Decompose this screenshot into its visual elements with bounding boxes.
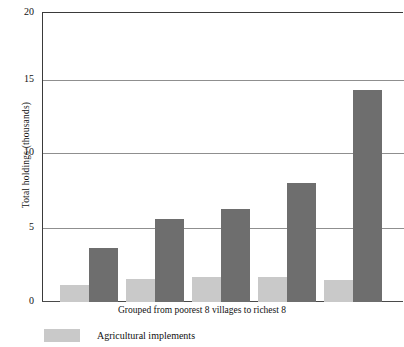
bar-dark-3: [221, 209, 250, 302]
bar-light-3: [192, 277, 221, 302]
bar-light-4: [258, 277, 287, 302]
cropped-title-remnant: [108, 0, 288, 2]
legend-label-agricultural-implements: Agricultural implements: [97, 330, 195, 341]
y-tick-label-15: 15: [0, 73, 34, 84]
chart-legend: Agricultural implements: [44, 329, 195, 342]
bar-light-5: [324, 280, 353, 302]
y-tick-label-5: 5: [0, 221, 34, 232]
bar-light-1: [60, 285, 89, 302]
bar-dark-2: [155, 219, 184, 302]
bar-dark-4: [287, 183, 316, 302]
x-axis-caption: Grouped from poorest 8 villages to riche…: [42, 305, 362, 315]
y-tick-label-20: 20: [0, 6, 34, 17]
y-tick-label-0: 0: [0, 295, 34, 306]
bar-light-2: [126, 279, 155, 302]
legend-swatch-agricultural-implements: [44, 329, 80, 342]
bar-dark-1: [89, 248, 118, 302]
bars-container: [42, 12, 403, 302]
bar-dark-5: [353, 90, 382, 302]
y-tick-label-10: 10: [0, 146, 34, 157]
